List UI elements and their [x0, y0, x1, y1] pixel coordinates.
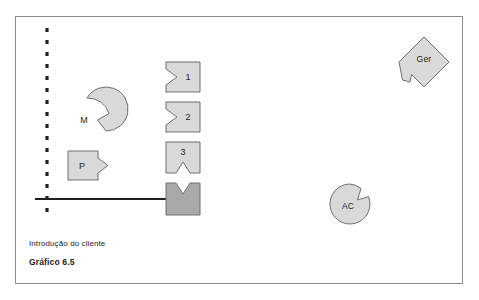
shape-2-label: 2	[185, 112, 190, 122]
shape-3-label: 3	[180, 147, 185, 157]
diagram-svg: M P 1 2 3 Ger	[0, 0, 479, 300]
caption-subtitle: Introdução do cliente	[29, 239, 106, 248]
shape-p-label: P	[79, 161, 85, 171]
shape-m-label: M	[80, 115, 88, 125]
caption-title: Gráfico 6.5	[29, 257, 75, 267]
shape-ger-label: Ger	[417, 54, 432, 64]
shape-1-label: 1	[185, 72, 190, 82]
figure-canvas: M P 1 2 3 Ger	[0, 0, 479, 300]
shape-ac-label: AC	[342, 201, 354, 211]
